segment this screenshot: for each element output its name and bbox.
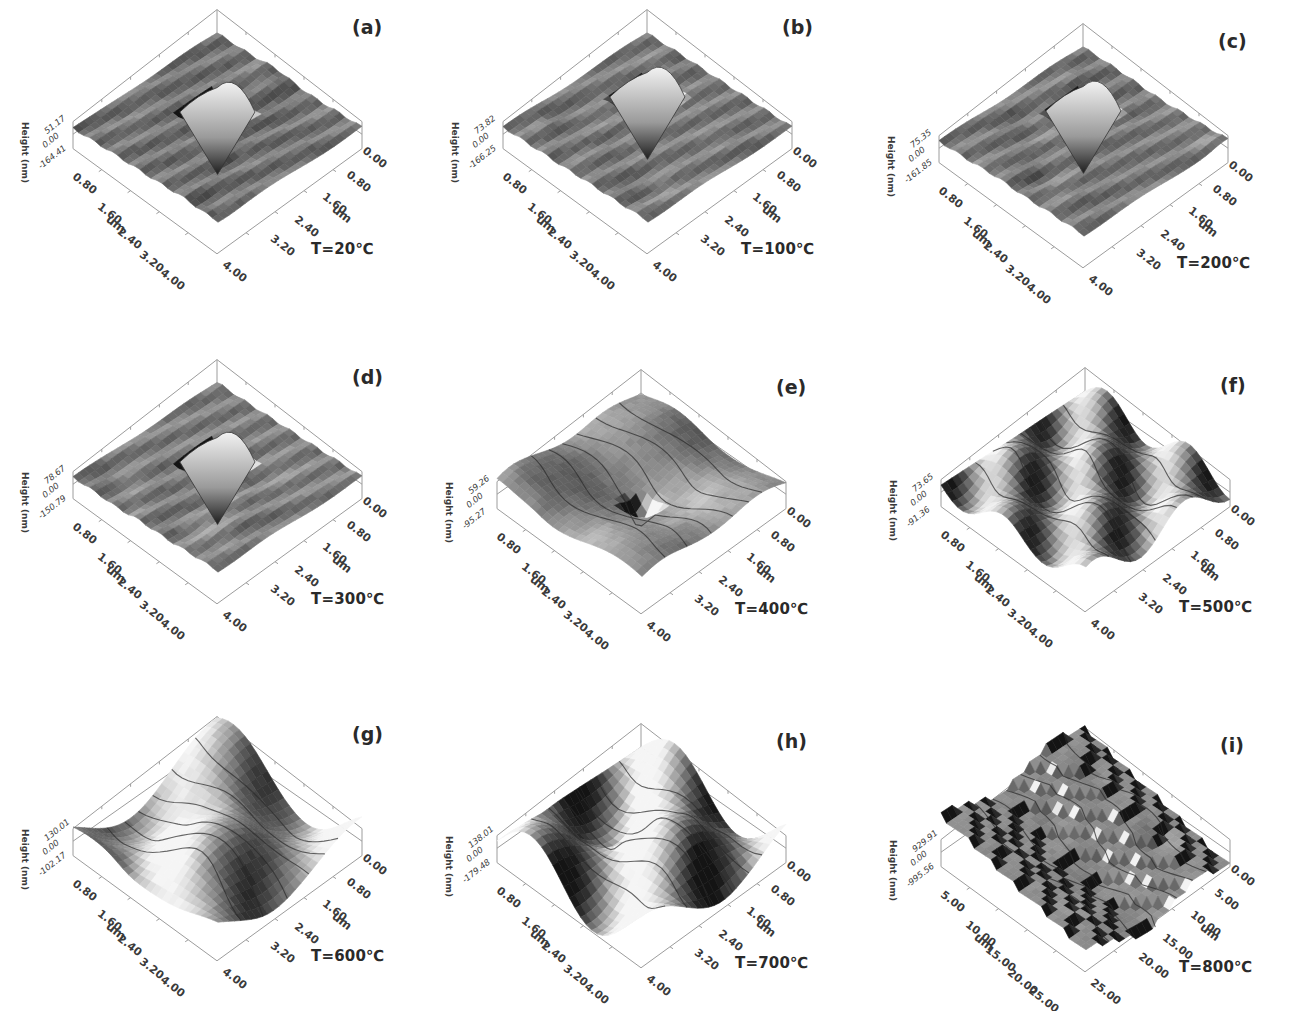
temperature-label: T=400℃ (735, 600, 808, 618)
panel-label: (e) (776, 376, 806, 398)
z-axis-title: Height (nm) (444, 482, 454, 543)
panel-b: (b)T=100℃73.820.00-166.25Height (nm)0.80… (430, 0, 860, 337)
temperature-label: T=100℃ (741, 240, 814, 258)
temperature-label: T=800℃ (1179, 958, 1252, 976)
surface-plot (430, 0, 860, 337)
height-surface (497, 394, 786, 576)
panel-e: (e)T=400℃59.260.00-95.27Height (nm)0.801… (424, 360, 854, 697)
panel-label: (i) (1220, 734, 1244, 756)
z-axis-title: Height (nm) (444, 836, 454, 897)
panel-label: (c) (1218, 30, 1247, 52)
panel-i: (i)T=800℃929.910.00-995.56Height (nm)5.0… (868, 718, 1289, 1011)
panel-label: (g) (352, 723, 383, 745)
z-axis-title: Height (nm) (20, 122, 30, 183)
surface-plot (0, 350, 430, 687)
surface-plot (0, 0, 430, 337)
z-axis-title: Height (nm) (888, 840, 898, 901)
temperature-label: T=500℃ (1179, 598, 1252, 616)
surface-plot (868, 358, 1289, 695)
panel-c: (c)T=200℃75.350.00-161.85Height (nm)0.80… (866, 14, 1289, 351)
panel-a: (a)T=20℃51.170.00-164.41Height (nm)0.801… (0, 0, 430, 337)
z-axis-title: Height (nm) (20, 829, 30, 890)
z-axis-title: Height (nm) (886, 136, 896, 197)
temperature-label: T=200℃ (1177, 254, 1250, 272)
surface-plot (866, 14, 1289, 351)
afm-figure-grid: (a)T=20℃51.170.00-164.41Height (nm)0.801… (0, 0, 1289, 1011)
panel-label: (a) (352, 16, 382, 38)
panel-label: (b) (782, 16, 813, 38)
surface-plot (424, 360, 854, 697)
z-axis-title: Height (nm) (20, 472, 30, 533)
height-surface (941, 387, 1230, 567)
temperature-label: T=20℃ (311, 240, 374, 258)
height-surface (497, 739, 786, 935)
panel-label: (d) (352, 366, 383, 388)
panel-d: (d)T=300℃78.670.00-150.79Height (nm)0.80… (0, 350, 430, 687)
panel-f: (f)T=500℃73.650.00-91.36Height (nm)0.801… (868, 358, 1289, 695)
panel-g: (g)T=600℃130.010.00-102.17Height (nm)0.8… (0, 707, 430, 1011)
height-surface (941, 726, 1230, 950)
temperature-label: T=700℃ (735, 954, 808, 972)
panel-label: (h) (776, 730, 807, 752)
panel-label: (f) (1220, 374, 1246, 396)
temperature-label: T=300℃ (311, 590, 384, 608)
panel-h: (h)T=700℃138.010.00-179.48Height (nm)0.8… (424, 714, 854, 1011)
z-axis-title: Height (nm) (450, 122, 460, 183)
temperature-label: T=600℃ (311, 947, 384, 965)
z-axis-title: Height (nm) (888, 480, 898, 541)
height-surface (73, 718, 362, 922)
